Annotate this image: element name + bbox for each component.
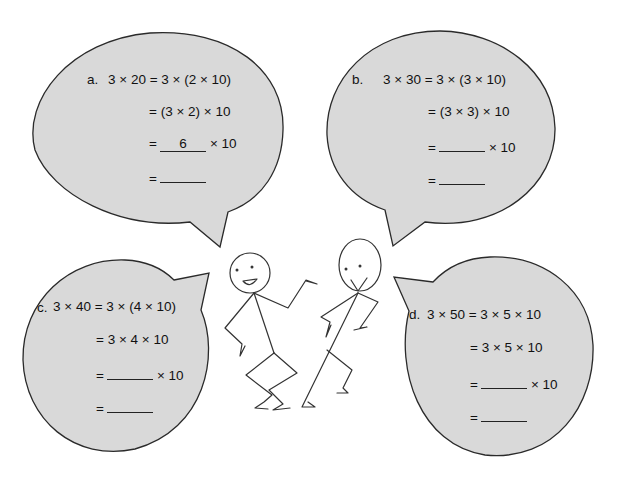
- multiplier: × 10: [489, 140, 516, 155]
- problem-label: b.: [352, 72, 363, 88]
- answer-blank[interactable]: 6: [160, 137, 206, 152]
- answer-blank[interactable]: [481, 374, 527, 389]
- equation-line-3: =× 10: [428, 137, 516, 156]
- multiplier: × 10: [210, 136, 237, 151]
- answer-blank[interactable]: [107, 365, 153, 380]
- answer-blank[interactable]: [160, 168, 206, 183]
- equation-line-2: = (3 × 2) × 10: [149, 104, 230, 120]
- equation-line-3: =6× 10: [149, 136, 237, 152]
- equation-line-3: =× 10: [470, 374, 558, 393]
- problem-label: a.: [87, 72, 98, 88]
- equals-sign: =: [149, 136, 157, 151]
- equation-line-4: =: [470, 407, 531, 426]
- problem-label: c.: [37, 300, 48, 316]
- answer-blank[interactable]: [439, 170, 485, 185]
- answer-blank[interactable]: [107, 398, 153, 413]
- equation-line-2: = (3 × 3) × 10: [428, 104, 509, 120]
- multiplier: × 10: [531, 377, 558, 392]
- equals-sign: =: [149, 171, 157, 186]
- equation-line-4: =: [149, 168, 210, 187]
- equation-line-3: =× 10: [96, 365, 184, 384]
- equals-sign: =: [428, 173, 436, 188]
- equation-line-4: =: [428, 170, 489, 189]
- answer-blank[interactable]: [481, 407, 527, 422]
- equation-line-1: 3 × 20 = 3 × (2 × 10): [108, 72, 231, 88]
- equation-line-2: = 3 × 4 × 10: [96, 332, 168, 348]
- multiplier: × 10: [157, 368, 184, 383]
- equals-sign: =: [96, 401, 104, 416]
- equation-line-2: = 3 × 5 × 10: [470, 340, 542, 356]
- speech-bubble-c: [23, 260, 209, 451]
- stick-figure-right: [302, 239, 381, 407]
- equation-line-1: 3 × 30 = 3 × (3 × 10): [383, 72, 506, 88]
- equals-sign: =: [96, 368, 104, 383]
- equals-sign: =: [428, 140, 436, 155]
- equation-line-4: =: [96, 398, 157, 417]
- problem-label: d.: [409, 307, 420, 323]
- equation-line-1: 3 × 50 = 3 × 5 × 10: [427, 307, 541, 323]
- equals-sign: =: [470, 410, 478, 425]
- answer-blank[interactable]: [439, 137, 485, 152]
- equals-sign: =: [470, 377, 478, 392]
- equation-line-1: 3 × 40 = 3 × (4 × 10): [53, 299, 176, 315]
- stick-figure-left: [225, 253, 317, 410]
